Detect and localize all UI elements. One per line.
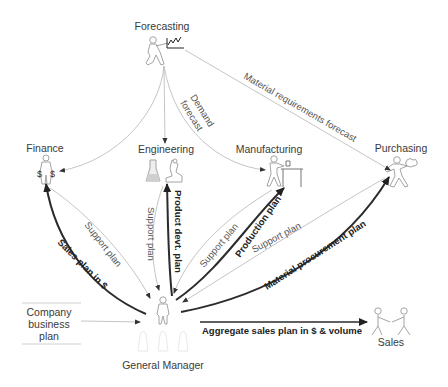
company-plan-line2: business bbox=[28, 318, 69, 330]
manufacturing-label: Manufacturing bbox=[236, 143, 303, 155]
svg-text:$: $ bbox=[50, 169, 55, 179]
company-plan-line1: Company bbox=[27, 306, 73, 318]
product-devt-plan-label: Product devt. plan bbox=[173, 190, 184, 273]
company-plan-line3: plan bbox=[39, 330, 59, 342]
sales-label: Sales bbox=[378, 336, 404, 348]
edge-product-devt-plan bbox=[167, 184, 172, 296]
purchasing-label: Purchasing bbox=[375, 142, 428, 154]
handshake-people-icon bbox=[372, 308, 410, 335]
material-requirements-forecast-label: Material requirements forecast bbox=[242, 70, 359, 144]
svg-text:$: $ bbox=[37, 169, 42, 179]
person-at-workbench-icon bbox=[267, 156, 303, 187]
planning-flow-diagram: Forecasting Finance $ $ Engineering Manu… bbox=[0, 0, 448, 387]
person-with-money-bags-icon: $ $ bbox=[37, 155, 55, 184]
edge-company-plan-to-gm bbox=[81, 321, 140, 322]
flask-and-microscope-icon bbox=[146, 159, 182, 182]
forecasting-label: Forecasting bbox=[135, 20, 190, 32]
node-engineering: Engineering bbox=[138, 143, 194, 182]
node-company-business-plan: Company business plan bbox=[22, 303, 81, 344]
node-manufacturing: Manufacturing bbox=[236, 143, 303, 187]
finance-label: Finance bbox=[26, 142, 64, 154]
aggregate-sales-plan-label: Aggregate sales plan in $ & volume bbox=[202, 325, 362, 336]
edge-forecast-to-engineering bbox=[164, 66, 165, 143]
engineering-label: Engineering bbox=[138, 143, 194, 155]
node-forecasting: Forecasting bbox=[135, 20, 190, 65]
general-manager-label: General Manager bbox=[122, 359, 204, 371]
person-carrying-goods-icon bbox=[385, 157, 417, 187]
edge-purchasing-support-plan bbox=[183, 178, 385, 302]
node-purchasing: Purchasing bbox=[375, 142, 428, 187]
engineering-support-plan-label: Support plan bbox=[146, 207, 157, 261]
manager-person-icon bbox=[138, 297, 188, 351]
edge-forecast-to-finance bbox=[60, 66, 164, 171]
node-finance: Finance $ $ bbox=[26, 142, 64, 184]
person-with-chart-icon bbox=[146, 37, 184, 65]
material-procurement-plan-label: Material procurement plan bbox=[262, 218, 368, 292]
node-sales: Sales bbox=[372, 308, 410, 348]
